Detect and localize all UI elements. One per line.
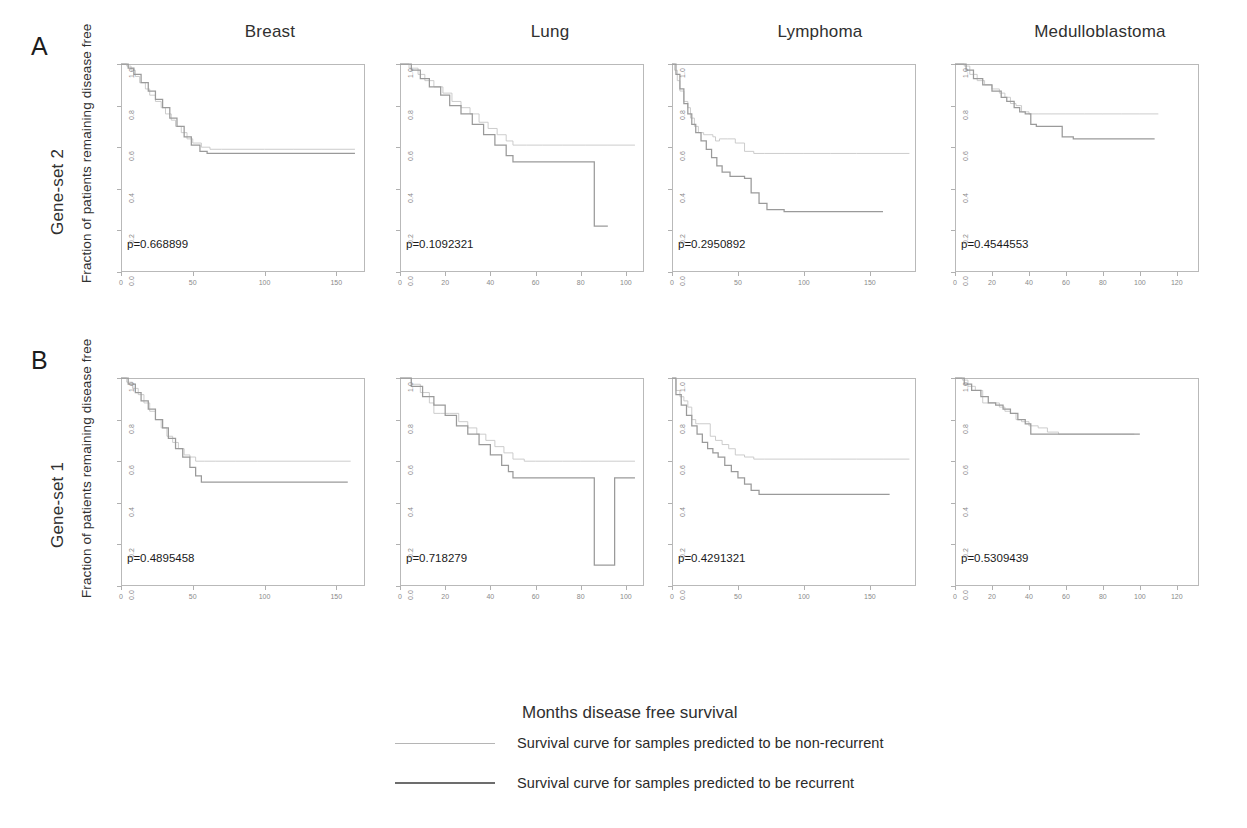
y-tick-label: 0.6 (962, 461, 969, 479)
y-tick-label: 1.0 (679, 378, 686, 396)
y-tick-label: 1.0 (128, 378, 135, 396)
y-tick (951, 272, 955, 273)
y-tick-label: 0.8 (679, 420, 686, 438)
x-tick (400, 586, 401, 590)
panel-letter-b: B (31, 348, 48, 373)
y-tick (117, 378, 121, 379)
survival-curve-recurrent (121, 378, 348, 482)
x-tick-label: 40 (486, 279, 494, 286)
x-tick (870, 272, 871, 276)
y-tick-label: 0.8 (962, 106, 969, 124)
p-value-label: p=0.4895458 (127, 552, 194, 564)
p-value-label: p=0.4544553 (961, 238, 1028, 250)
panel-letter-a: A (31, 34, 48, 59)
x-tick-label: 40 (486, 593, 494, 600)
x-tick (1029, 586, 1030, 590)
y-tick (117, 272, 121, 273)
x-tick (1177, 586, 1178, 590)
y-tick (951, 461, 955, 462)
x-tick-label: 120 (1171, 279, 1183, 286)
x-tick-label: 120 (1171, 593, 1183, 600)
figure-root: Breast Lung Lymphoma Medulloblastoma A B… (0, 0, 1247, 828)
plot-panel-b-medulloblastoma: p=0.53094390204060801001200.00.20.40.60.… (955, 378, 1199, 586)
y-tick-label: 0.4 (128, 189, 135, 207)
x-tick (804, 586, 805, 590)
y-tick-label: 0.0 (128, 586, 135, 604)
survival-curve-recurrent (955, 378, 1140, 434)
y-tick (396, 189, 400, 190)
x-tick (955, 586, 956, 590)
x-tick (536, 272, 537, 276)
survival-curve-recurrent (955, 64, 1155, 139)
y-tick (668, 586, 672, 587)
x-tick (490, 586, 491, 590)
y-tick (396, 461, 400, 462)
x-tick-label: 20 (988, 593, 996, 600)
y-tick (396, 420, 400, 421)
plot-panel-b-lung: p=0.7182790204060801000.00.20.40.60.81.0 (400, 378, 644, 586)
y-tick (396, 106, 400, 107)
y-tick (117, 503, 121, 504)
y-tick-label: 0.0 (962, 586, 969, 604)
y-tick (117, 461, 121, 462)
x-tick-label: 80 (577, 279, 585, 286)
y-tick (668, 420, 672, 421)
p-value-label: p=0.2950892 (678, 238, 745, 250)
x-tick (992, 272, 993, 276)
y-tick-label: 0.0 (128, 272, 135, 290)
legend-label-recurrent: Survival curve for samples predicted to … (517, 775, 854, 791)
x-tick (1103, 586, 1104, 590)
y-tick-label: 0.6 (679, 147, 686, 165)
y-tick (117, 230, 121, 231)
survival-curve-non-recurrent (955, 378, 1134, 434)
plot-panel-a-lung: p=0.10923210204060801000.00.20.40.60.81.… (400, 64, 644, 272)
p-value-label: p=0.4291321 (678, 552, 745, 564)
x-tick-label: 100 (620, 593, 632, 600)
x-tick (265, 272, 266, 276)
survival-curve-recurrent (400, 378, 635, 565)
x-tick-label: 0 (119, 279, 123, 286)
x-tick-label: 50 (189, 279, 197, 286)
x-tick-label: 20 (988, 279, 996, 286)
y-tick-label: 0.8 (407, 420, 414, 438)
survival-curve-recurrent (672, 378, 890, 494)
y-tick-label: 0.2 (128, 544, 135, 562)
legend-entry-recurrent: Survival curve for samples predicted to … (395, 775, 854, 791)
y-tick (117, 189, 121, 190)
y-tick (951, 503, 955, 504)
x-tick-label: 100 (259, 593, 271, 600)
y-tick-label: 0.2 (407, 230, 414, 248)
x-tick (738, 586, 739, 590)
row-label-gene-set-2: Gene-set 2 (48, 149, 68, 235)
y-tick (951, 420, 955, 421)
column-title-lung: Lung (460, 22, 640, 42)
x-tick (1140, 272, 1141, 276)
y-tick-label: 0.2 (679, 230, 686, 248)
y-tick-label: 0.8 (128, 420, 135, 438)
y-tick-label: 0.6 (962, 147, 969, 165)
survival-curve-non-recurrent (400, 64, 635, 145)
legend-label-non-recurrent: Survival curve for samples predicted to … (517, 735, 884, 751)
y-tick (396, 272, 400, 273)
x-tick-label: 40 (1025, 593, 1033, 600)
x-tick (672, 272, 673, 276)
y-tick-label: 0.4 (679, 503, 686, 521)
y-tick-label: 0.0 (407, 272, 414, 290)
x-tick (804, 272, 805, 276)
y-tick-label: 0.6 (679, 461, 686, 479)
x-tick-label: 40 (1025, 279, 1033, 286)
x-tick (490, 272, 491, 276)
x-tick-label: 60 (1062, 279, 1070, 286)
x-tick (1177, 272, 1178, 276)
x-tick-label: 20 (441, 593, 449, 600)
y-tick (396, 147, 400, 148)
x-tick-label: 150 (864, 279, 876, 286)
x-tick-label: 60 (532, 279, 540, 286)
y-tick-label: 0.4 (407, 503, 414, 521)
legend-line-non-recurrent (395, 743, 495, 744)
y-tick (951, 230, 955, 231)
x-tick (1066, 272, 1067, 276)
x-tick-label: 80 (1099, 279, 1107, 286)
column-title-medulloblastoma: Medulloblastoma (1000, 22, 1200, 42)
x-tick-label: 0 (670, 593, 674, 600)
